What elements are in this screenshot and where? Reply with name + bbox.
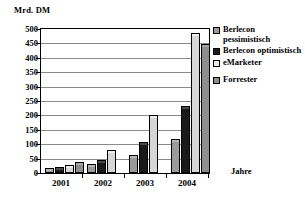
chart-container: Mrd. DM Jahre 50045040035030025020015010…	[0, 0, 305, 206]
legend-swatch-icon	[213, 60, 220, 67]
legend-label: Berlecon optimistisch	[223, 46, 301, 56]
legend-item[interactable]: Berlecon pessimistisch	[213, 25, 303, 44]
y-tick-label: 300	[4, 82, 38, 92]
legend-label: eMarketer	[223, 58, 262, 68]
y-axis-title: Mrd. DM	[14, 5, 50, 15]
legend-swatch-icon	[213, 77, 220, 84]
legend-item[interactable]: Berlecon optimistisch	[213, 46, 303, 56]
y-tick-label: 100	[4, 139, 38, 149]
y-tick-label: 400	[4, 53, 38, 63]
legend-swatch-icon	[213, 27, 220, 34]
y-tick-label: 500	[4, 24, 38, 34]
bar-top-face	[65, 165, 74, 168]
y-tick-label: 150	[4, 125, 38, 135]
bar-top-face	[181, 106, 190, 109]
bar-top-face	[55, 167, 64, 170]
x-axis-title: Jahre	[231, 166, 252, 176]
bar[interactable]	[149, 117, 158, 173]
bar[interactable]	[191, 35, 200, 173]
bar[interactable]	[171, 141, 180, 173]
bar[interactable]	[201, 46, 210, 173]
bar[interactable]	[129, 157, 138, 173]
y-tick-label: 200	[4, 110, 38, 120]
bar-top-face	[97, 160, 106, 163]
bar-top-face	[201, 44, 210, 47]
bar-top-face	[149, 115, 158, 118]
bar-top-face	[75, 162, 84, 165]
bar[interactable]	[87, 166, 96, 173]
bar[interactable]	[55, 169, 64, 173]
y-tick-label: 250	[4, 96, 38, 106]
legend-label: Berlecon pessimistisch	[223, 25, 303, 44]
bar-top-face	[139, 142, 148, 145]
plot-area	[40, 28, 210, 174]
bar-group	[87, 29, 127, 173]
bar[interactable]	[75, 164, 84, 173]
bar-top-face	[191, 33, 200, 36]
bar[interactable]	[139, 144, 148, 173]
x-tick-mark	[208, 174, 209, 178]
y-tick-label: 0	[4, 168, 38, 178]
bar-group	[129, 29, 169, 173]
legend-label: Forrester	[223, 75, 257, 85]
bar-top-face	[45, 168, 54, 171]
bar-top-face	[87, 164, 96, 167]
bar[interactable]	[181, 108, 190, 173]
x-tick-label: 2003	[122, 178, 168, 188]
bar[interactable]	[97, 162, 106, 173]
x-tick-label: 2004	[164, 178, 210, 188]
legend-item[interactable]: eMarketer	[213, 58, 303, 68]
x-tick-label: 2001	[38, 178, 84, 188]
bar-top-face	[171, 139, 180, 142]
legend-item[interactable]: Forrester	[213, 75, 303, 85]
y-tick-label: 450	[4, 38, 38, 48]
bar[interactable]	[107, 152, 116, 173]
y-tick-label: 350	[4, 67, 38, 77]
bar-top-face	[129, 155, 138, 158]
x-tick-label: 2002	[80, 178, 126, 188]
y-tick-label: 50	[4, 154, 38, 164]
bar-group	[171, 29, 211, 173]
bar-top-face	[107, 150, 116, 153]
legend-swatch-icon	[213, 48, 220, 55]
bar[interactable]	[65, 167, 74, 173]
y-axis-ticks: 500450400350300250200150100500	[0, 28, 38, 174]
bar-group	[45, 29, 85, 173]
chart-legend: Berlecon pessimistischBerlecon optimisti…	[213, 25, 303, 87]
bar[interactable]	[45, 170, 54, 173]
